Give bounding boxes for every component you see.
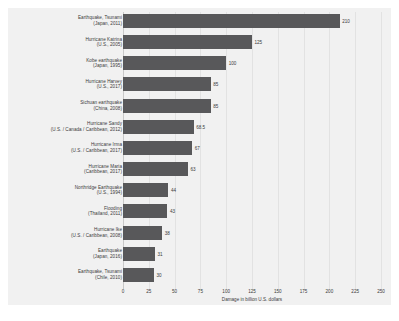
bar-zone: 68.5 [123, 118, 391, 136]
category-label: Earthquake, Tsunami(Chile, 2010) [8, 269, 122, 280]
bar[interactable] [123, 247, 155, 261]
bar-zone: 85 [123, 97, 391, 115]
bar-value-label: 44 [168, 188, 176, 193]
x-tick-100: 100 [222, 289, 230, 294]
bar-row: Earthquake, Tsunami(Japan, 2011)210 [8, 12, 391, 30]
bar[interactable] [123, 35, 252, 49]
bar[interactable] [123, 120, 194, 134]
bar-chart: Earthquake, Tsunami(Japan, 2011)210Hurri… [0, 0, 399, 321]
bar-value-label: 43 [167, 209, 175, 214]
x-tick-125: 125 [248, 289, 256, 294]
bar-rows: Earthquake, Tsunami(Japan, 2011)210Hurri… [8, 12, 391, 284]
category-label: Hurricane Harvey(U.S., 2017) [8, 79, 122, 90]
bar-row: Earthquake, Tsunami(Chile, 2010)30 [8, 266, 391, 284]
category-label-line1: Northridge Earthquake [75, 185, 122, 190]
bar-value-label: 100 [226, 61, 236, 66]
category-label-line1: Earthquake, Tsunami [78, 15, 122, 20]
bar-value-label: 31 [155, 251, 163, 256]
bar-zone: 31 [123, 245, 391, 263]
x-tick-0: 0 [122, 289, 125, 294]
category-label-line1: Hurricane Katrina [85, 37, 122, 42]
bar-zone: 63 [123, 160, 391, 178]
category-label: Hurricane Maria(Caribbean, 2017) [8, 164, 122, 175]
bar-value-label: 210 [340, 19, 350, 24]
category-label-line2: (U.S. / Caribbean, 2017) [8, 148, 122, 154]
bar-value-label: 68.5 [194, 124, 205, 129]
bar-value-label: 67 [192, 145, 200, 150]
category-label-line1: Hurricane Harvey [85, 79, 122, 84]
bar-zone: 38 [123, 224, 391, 242]
x-tick-175: 175 [300, 289, 308, 294]
category-label-line1: Hurricane Maria [89, 164, 122, 169]
bar-row: Hurricane Katrina(U.S., 2005)125 [8, 33, 391, 51]
x-tick-200: 200 [326, 289, 334, 294]
bar-value-label: 30 [154, 272, 162, 277]
category-label-line2: (U.S. / Caribbean, 2008) [8, 233, 122, 239]
category-label: Northridge Earthquake(U.S., 1994) [8, 185, 122, 196]
bar-row: Sichuan earthquake(China, 2008)85 [8, 97, 391, 115]
bar-zone: 100 [123, 54, 391, 72]
bar[interactable] [123, 268, 154, 282]
bar-zone: 67 [123, 139, 391, 157]
category-label: Earthquake, Tsunami(Japan, 2011) [8, 15, 122, 26]
bar-value-label: 125 [252, 40, 262, 45]
bar[interactable] [123, 141, 192, 155]
category-label-line1: Hurricane Ike [94, 227, 122, 232]
bar-zone: 210 [123, 12, 391, 30]
bar[interactable] [123, 77, 211, 91]
bar-zone: 125 [123, 33, 391, 51]
bar-zone: 44 [123, 181, 391, 199]
category-label-line2: (U.S. / Canada / Caribbean, 2012) [8, 127, 122, 133]
x-tick-225: 225 [351, 289, 359, 294]
bar-zone: 30 [123, 266, 391, 284]
category-label: Hurricane Irma(U.S. / Caribbean, 2017) [8, 142, 122, 153]
bar-row: Hurricane Sandy(U.S. / Canada / Caribbea… [8, 118, 391, 136]
bar[interactable] [123, 56, 226, 70]
category-label: Kobe earthquake(Japan, 1995) [8, 58, 122, 69]
category-label-line2: (China, 2008) [8, 106, 122, 112]
category-label-line1: Flooding [104, 206, 122, 211]
category-label-line1: Hurricane Sandy [87, 121, 122, 126]
category-label-line2: (Japan, 2016) [8, 254, 122, 260]
category-label-line2: (U.S., 2005) [8, 42, 122, 48]
bar-value-label: 85 [211, 82, 219, 87]
category-label: Flooding(Thailand, 2011) [8, 206, 122, 217]
category-label-line2: (Thailand, 2011) [8, 211, 122, 217]
category-label-line1: Earthquake [98, 248, 122, 253]
bar[interactable] [123, 14, 340, 28]
bar-row: Hurricane Harvey(U.S., 2017)85 [8, 75, 391, 93]
category-label: Hurricane Katrina(U.S., 2005) [8, 37, 122, 48]
category-label: Hurricane Ike(U.S. / Caribbean, 2008) [8, 227, 122, 238]
x-tick-25: 25 [146, 289, 151, 294]
category-label-line2: (Japan, 2011) [8, 21, 122, 27]
x-tick-50: 50 [172, 289, 177, 294]
bar-row: Hurricane Maria(Caribbean, 2017)63 [8, 160, 391, 178]
category-label-line1: Earthquake, Tsunami [78, 269, 122, 274]
bar[interactable] [123, 162, 188, 176]
bar-value-label: 63 [188, 167, 196, 172]
category-label: Earthquake(Japan, 2016) [8, 248, 122, 259]
category-label-line1: Hurricane Irma [91, 142, 122, 147]
category-label-line2: (U.S., 1994) [8, 190, 122, 196]
bar-row: Hurricane Irma(U.S. / Caribbean, 2017)67 [8, 139, 391, 157]
bar-row: Flooding(Thailand, 2011)43 [8, 202, 391, 220]
category-label-line2: (U.S., 2017) [8, 84, 122, 90]
x-tick-250: 250 [377, 289, 385, 294]
bar-value-label: 85 [211, 103, 219, 108]
bar-row: Earthquake(Japan, 2016)31 [8, 245, 391, 263]
bar-row: Kobe earthquake(Japan, 1995)100 [8, 54, 391, 72]
category-label: Hurricane Sandy(U.S. / Canada / Caribbea… [8, 121, 122, 132]
bar-zone: 43 [123, 202, 391, 220]
bar-row: Hurricane Ike(U.S. / Caribbean, 2008)38 [8, 224, 391, 242]
bar[interactable] [123, 99, 211, 113]
category-label-line2: (Chile, 2010) [8, 275, 122, 281]
category-label: Sichuan earthquake(China, 2008) [8, 100, 122, 111]
category-label-line1: Kobe earthquake [86, 58, 122, 63]
bar-row: Northridge Earthquake(U.S., 1994)44 [8, 181, 391, 199]
bar[interactable] [123, 183, 168, 197]
bar-zone: 85 [123, 75, 391, 93]
bar[interactable] [123, 226, 162, 240]
x-tick-150: 150 [274, 289, 282, 294]
bar[interactable] [123, 204, 167, 218]
x-axis-title: Damage in billion U.S. dollars [123, 297, 381, 302]
